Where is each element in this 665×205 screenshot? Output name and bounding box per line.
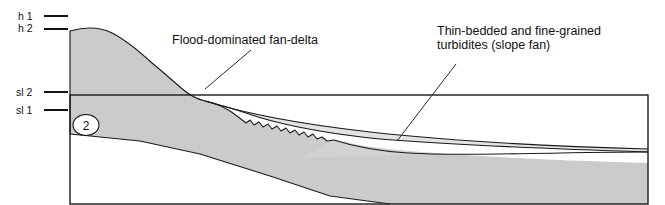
stage-marker: 2 — [73, 115, 99, 136]
datum-label-h1: h 1 — [18, 10, 33, 22]
annotation-slope-fan: Thin-bedded and fine-grainedturbidites (… — [437, 24, 601, 52]
datum-label-sl1: sl 1 — [16, 104, 33, 116]
leader-line-slope-fan — [397, 64, 456, 141]
leader-line-fan-delta — [205, 50, 251, 89]
stage-marker-label: 2 — [83, 119, 90, 133]
annotation-slope-fan-line-0: Thin-bedded and fine-grained — [437, 24, 601, 38]
annotation-labels: Flood-dominated fan-deltaThin-bedded and… — [172, 24, 601, 52]
cross-section-svg: h 1h 2sl 2sl 1 Flood-dominated fan-delta… — [0, 0, 665, 205]
geologic-cross-section-figure: h 1h 2sl 2sl 1 Flood-dominated fan-delta… — [0, 0, 665, 205]
basement-unit-shape — [70, 28, 648, 204]
datum-label-sl2: sl 2 — [16, 86, 33, 98]
annotation-fan-delta-line-0: Flood-dominated fan-delta — [172, 33, 318, 47]
annotation-slope-fan-line-1: turbidites (slope fan) — [437, 38, 550, 52]
datum-labels: h 1h 2sl 2sl 1 — [16, 10, 33, 116]
annotation-fan-delta: Flood-dominated fan-delta — [172, 33, 318, 47]
datum-tick-marks — [44, 16, 68, 110]
datum-label-h2: h 2 — [18, 22, 33, 34]
